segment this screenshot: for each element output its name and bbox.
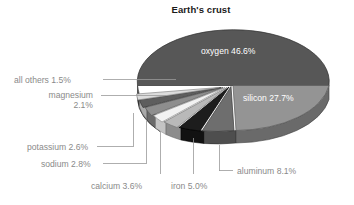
slice-side-aluminum bbox=[204, 131, 236, 144]
slice-label-magnesium-line2: 2.1% bbox=[73, 100, 93, 110]
slice-label-iron: iron 5.0% bbox=[171, 181, 207, 191]
pie-chart: Earth's crust bbox=[0, 0, 354, 205]
slice-label-magnesium-line1: magnesium bbox=[49, 90, 93, 100]
slice-label-potassium: potassium 2.6% bbox=[27, 142, 88, 152]
slice-label-silicon: silicon 27.7% bbox=[243, 93, 294, 103]
slice-label-aluminum: aluminum 8.1% bbox=[237, 166, 296, 176]
slice-label-all-others: all others 1.5% bbox=[14, 75, 71, 85]
slice-label-calcium: calcium 3.6% bbox=[91, 181, 142, 191]
slice-label-oxygen: oxygen 46.6% bbox=[201, 46, 255, 56]
pie-top-faces bbox=[137, 30, 330, 132]
slice-oxygen bbox=[137, 30, 329, 86]
slice-label-magnesium: magnesium 2.1% bbox=[15, 90, 93, 111]
slice-label-sodium: sodium 2.8% bbox=[41, 159, 91, 169]
leader-aluminum bbox=[219, 145, 233, 171]
